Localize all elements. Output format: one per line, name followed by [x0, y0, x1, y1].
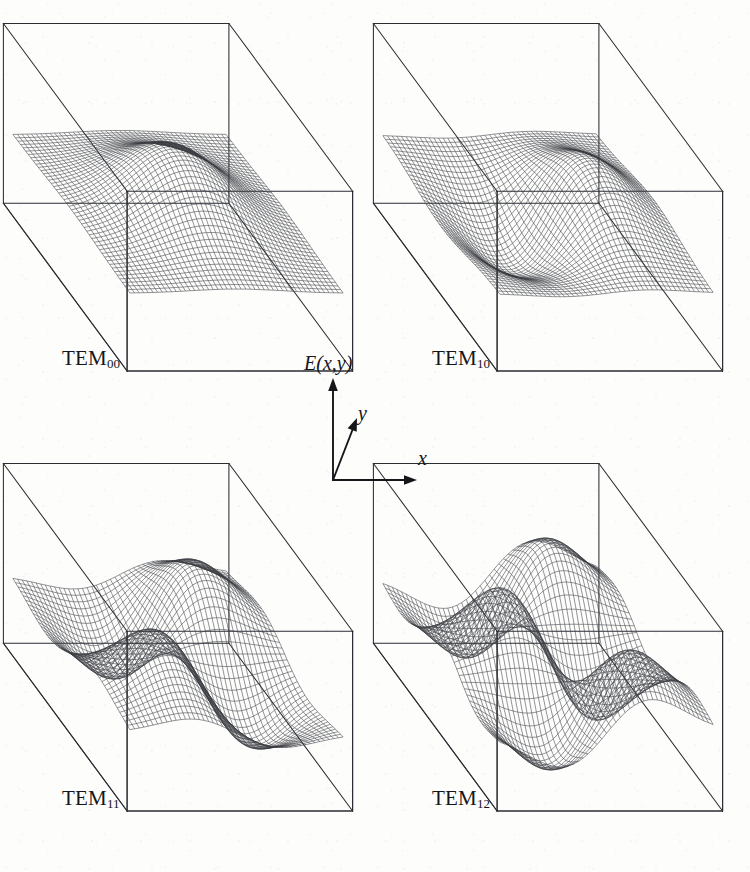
- mesh-line-u: [82, 171, 295, 224]
- mesh-line-v: [133, 131, 250, 290]
- mesh-line-u: [77, 160, 290, 217]
- mesh-line-v: [490, 575, 607, 734]
- box-edge: [3, 24, 127, 192]
- axis-label-x: x: [418, 447, 427, 470]
- mode-label-subscript: 10: [477, 356, 490, 371]
- mode-label-text: TEM: [62, 786, 107, 810]
- surface-plot-tem10: [398, 28, 698, 388]
- panel-tem10: TEM10: [398, 28, 698, 388]
- mesh-line-v: [180, 133, 297, 292]
- mode-label-tem11: TEM11: [62, 786, 119, 812]
- mesh-line-v: [106, 131, 223, 290]
- mesh-line-v: [18, 134, 135, 293]
- panel-tem11: TEM11: [28, 468, 328, 828]
- bounding-box: [3, 24, 352, 372]
- box-edge: [373, 24, 497, 192]
- surface-plot-tem00: [28, 28, 328, 388]
- mesh-line-v: [596, 566, 713, 725]
- y-axis-line: [333, 426, 354, 480]
- mode-label-tem00: TEM00: [62, 346, 120, 372]
- mode-label-subscript: 00: [107, 356, 120, 371]
- box-edge: [599, 464, 723, 632]
- axis-key: E(x,y) y x: [296, 352, 466, 502]
- mode-label-subscript: 11: [107, 796, 120, 811]
- mesh-line-v: [41, 134, 158, 293]
- mesh-line-v: [13, 134, 130, 293]
- right-arrow-icon: [404, 475, 417, 485]
- mesh-line-v: [36, 134, 153, 293]
- mode-label-subscript: 12: [477, 796, 490, 811]
- tem-mode-figure: TEM00 TEM10 TEM11 TEM12 E(x,y) y x: [0, 0, 750, 872]
- wireframe-mesh: [383, 538, 713, 770]
- axis-label-e: E(x,y): [304, 352, 352, 375]
- axis-label-y: y: [358, 402, 367, 425]
- surface-plot-tem12: [398, 468, 698, 828]
- bounding-box-front: [3, 191, 352, 371]
- diagonal-arrow-icon: [348, 418, 357, 432]
- panel-tem00: TEM00: [28, 28, 328, 388]
- bounding-box: [373, 24, 722, 372]
- box-edge: [229, 24, 353, 192]
- up-arrow-icon: [328, 378, 338, 391]
- mesh-line-v: [383, 584, 500, 743]
- mode-label-tem12: TEM12: [432, 786, 490, 812]
- mode-label-text: TEM: [432, 786, 477, 810]
- mode-label-text: TEM: [62, 346, 107, 370]
- wireframe-mesh: [383, 131, 713, 296]
- box-edge: [3, 464, 127, 632]
- wireframe-mesh: [13, 559, 343, 749]
- wireframe-mesh: [13, 131, 343, 294]
- panel-tem12: TEM12: [398, 468, 698, 828]
- surface-plot-tem11: [28, 468, 328, 828]
